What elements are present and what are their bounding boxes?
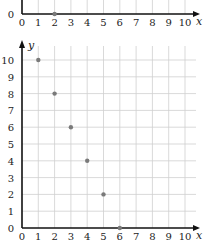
x-tick-label: 10 bbox=[179, 17, 192, 28]
x-tick-label: 4 bbox=[84, 231, 90, 241]
data-point bbox=[52, 91, 56, 95]
x-tick-label: 6 bbox=[117, 17, 123, 28]
x-tick-label: 0 bbox=[19, 231, 25, 241]
x-tick-label: 5 bbox=[100, 231, 106, 241]
x-tick-label: 7 bbox=[133, 231, 139, 241]
x-tick-label: 0 bbox=[19, 17, 25, 28]
x-tick-label: 5 bbox=[100, 17, 106, 28]
x-tick-label: 7 bbox=[133, 17, 139, 28]
x-tick-label: 9 bbox=[166, 17, 172, 28]
x-tick-label: 8 bbox=[149, 231, 155, 241]
x-tick-label: 3 bbox=[68, 231, 74, 241]
y-tick-label: 1 bbox=[8, 206, 14, 217]
x-tick-label: 6 bbox=[117, 231, 123, 241]
x-tick-label: 2 bbox=[51, 231, 57, 241]
x-tick-label: 9 bbox=[166, 231, 172, 241]
x-tick-label: 1 bbox=[35, 231, 41, 241]
y-tick-label: 10 bbox=[1, 55, 14, 66]
data-point bbox=[118, 226, 122, 230]
y-tick-label: 4 bbox=[8, 156, 14, 167]
x-tick-label: 3 bbox=[68, 17, 74, 28]
x-tick-label: 2 bbox=[51, 17, 57, 28]
y-tick-label: 8 bbox=[8, 89, 14, 100]
y-tick-label: 5 bbox=[8, 139, 14, 150]
data-point bbox=[36, 58, 40, 62]
y-tick-label: 2 bbox=[8, 189, 14, 200]
scatter-plot: x0012345678910yx012345678910012345678910 bbox=[0, 0, 204, 241]
x-tick-label: 1 bbox=[35, 17, 41, 28]
data-point bbox=[85, 159, 89, 163]
y-axis-arrow-icon bbox=[19, 40, 25, 48]
y-tick-label: 9 bbox=[8, 72, 14, 83]
y-tick-label: 7 bbox=[8, 105, 14, 116]
data-point bbox=[52, 12, 56, 16]
x-axis-label: x bbox=[196, 229, 203, 241]
x-tick-label: 4 bbox=[84, 17, 90, 28]
x-axis-label: x bbox=[196, 15, 203, 28]
y-tick-label: 3 bbox=[8, 173, 14, 184]
y-tick-label: 0 bbox=[8, 9, 14, 20]
x-tick-label: 10 bbox=[179, 231, 192, 241]
y-tick-label: 6 bbox=[8, 122, 14, 133]
x-tick-label: 8 bbox=[149, 17, 155, 28]
data-point bbox=[69, 125, 73, 129]
y-tick-label: 0 bbox=[8, 223, 14, 234]
data-point bbox=[101, 192, 105, 196]
y-axis-label: y bbox=[27, 39, 35, 52]
